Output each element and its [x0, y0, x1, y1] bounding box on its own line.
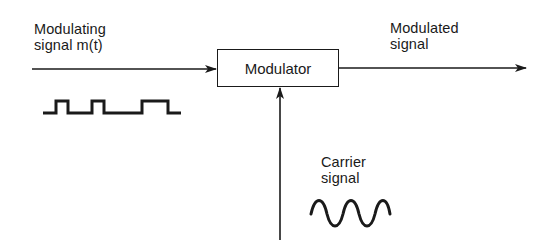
- modulator-block: Modulator: [217, 49, 339, 87]
- modulator-block-label: Modulator: [218, 60, 338, 77]
- diagram-canvas: [0, 0, 554, 244]
- sine-wave-icon: [311, 201, 390, 227]
- square-wave-icon: [43, 101, 181, 113]
